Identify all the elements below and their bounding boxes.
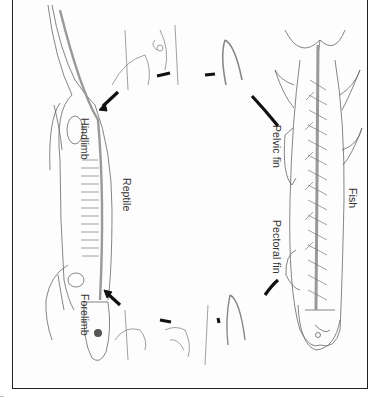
reptile-label: Reptile xyxy=(121,178,133,211)
pelvic-fin-label: Pelvic fin xyxy=(271,125,283,168)
fish-label: Fish xyxy=(347,188,359,208)
transition-sketches-top xyxy=(112,25,242,90)
transition-sketches-bottom xyxy=(115,295,245,365)
pectoral-fin-label: Pectoral fin xyxy=(271,220,283,274)
arrow-pectoral-to-sketch xyxy=(265,280,278,295)
fish-spine xyxy=(305,45,327,310)
arrow-pelvic-to-sketch xyxy=(252,96,278,126)
forelimb-label: Forelimb xyxy=(79,294,91,336)
hindlimb-label: Hindlimb xyxy=(79,118,91,160)
corner-mark xyxy=(0,396,4,397)
evolution-illustration xyxy=(0,0,379,402)
